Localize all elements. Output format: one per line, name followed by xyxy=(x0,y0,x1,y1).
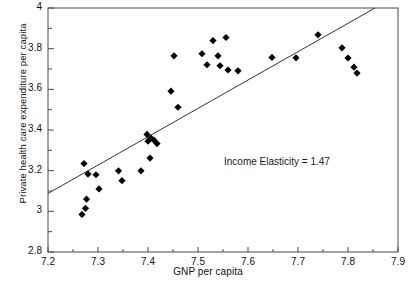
data-point xyxy=(216,62,223,69)
data-point xyxy=(344,54,351,61)
data-point xyxy=(198,50,205,57)
data-points xyxy=(78,31,360,218)
data-point xyxy=(338,44,345,51)
axis-ticks xyxy=(48,8,398,252)
data-point xyxy=(137,167,144,174)
data-point xyxy=(222,34,229,41)
data-point xyxy=(92,171,99,178)
data-point xyxy=(170,52,177,59)
data-point xyxy=(167,88,174,95)
y-tick-label: 4 xyxy=(2,1,42,12)
data-point xyxy=(353,69,360,76)
y-tick-label: 2.8 xyxy=(2,245,42,256)
data-point xyxy=(224,66,231,73)
income-elasticity-annotation: Income Elasticity = 1.47 xyxy=(224,156,330,167)
data-point xyxy=(350,64,357,71)
data-point xyxy=(83,196,90,203)
data-point xyxy=(95,185,102,192)
data-point xyxy=(82,205,89,212)
data-point xyxy=(78,211,85,218)
data-point xyxy=(209,37,216,44)
data-point xyxy=(214,52,221,59)
data-point xyxy=(314,31,321,38)
plot-frame xyxy=(48,8,398,252)
y-tick-label: 3 xyxy=(2,204,42,215)
data-point xyxy=(203,61,210,68)
plot-canvas xyxy=(0,0,416,287)
data-point xyxy=(115,167,122,174)
data-point xyxy=(268,54,275,61)
data-point xyxy=(234,67,241,74)
data-point xyxy=(80,160,87,167)
data-point xyxy=(174,104,181,111)
x-axis-label: GNP per capita xyxy=(0,266,416,277)
data-point xyxy=(292,54,299,61)
axes-frame xyxy=(48,8,398,252)
data-point xyxy=(84,171,91,178)
data-point xyxy=(146,154,153,161)
y-axis-label: Private health care expenditure per capi… xyxy=(17,24,28,204)
scatter-chart-figure: 7.27.37.47.57.67.77.87.92.833.23.43.63.8… xyxy=(0,0,416,287)
data-point xyxy=(118,177,125,184)
